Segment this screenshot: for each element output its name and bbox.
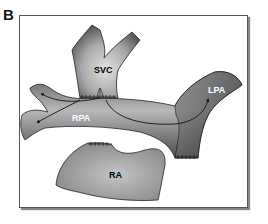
anatomy-diagram: SVC RPA LPA RA [0, 0, 268, 224]
label-rpa: RPA [72, 113, 91, 123]
label-svc: SVC [94, 65, 113, 75]
label-ra: RA [109, 170, 122, 180]
label-lpa: LPA [208, 85, 226, 95]
svc-shape [72, 25, 140, 98]
